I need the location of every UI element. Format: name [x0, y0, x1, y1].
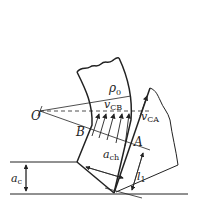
ach-label: ach — [103, 148, 119, 162]
point-o-label: O — [31, 109, 41, 123]
vcb-label: vCB — [104, 98, 122, 112]
point-a-label: A — [133, 135, 143, 149]
rho-label: ρ0 — [108, 81, 121, 97]
vca-label: vCA — [141, 110, 159, 124]
l1-label: l1 — [137, 170, 146, 184]
workpiece-surface-lines — [10, 162, 188, 194]
ac-label: ac — [11, 172, 23, 186]
point-b-label: B — [75, 125, 85, 139]
chip-formation-diagram: ρ0 vCB vCA O B A ach ac l1 — [0, 0, 199, 211]
